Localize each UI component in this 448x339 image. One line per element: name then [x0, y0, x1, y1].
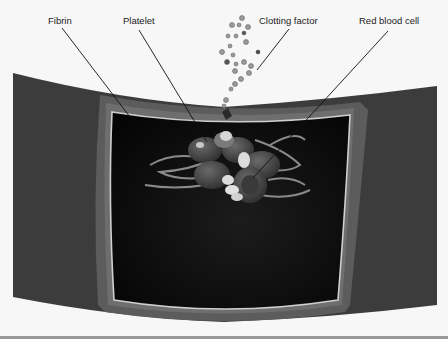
label-platelet: Platelet — [123, 15, 155, 26]
label-fibrin: Fibrin — [48, 15, 72, 26]
clotting-factors — [220, 16, 261, 109]
label-red-blood-cell: Red blood cell — [359, 15, 419, 26]
blood-vessel-illustration — [0, 0, 448, 339]
label-clotting-factor: Clotting factor — [259, 15, 318, 26]
